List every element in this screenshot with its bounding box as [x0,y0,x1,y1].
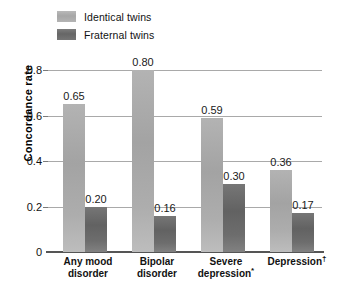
legend-label-identical-twins: Identical twins [84,11,151,23]
y-tick-label-0.8: 0.8 [27,64,42,76]
category-label-line2-bipolar-disorder: disorder [117,268,197,280]
category-label-any-mood-disorder: Any mood disorder [48,256,128,280]
bar-value-fraternal-bipolar-disorder: 0.16 [154,202,175,214]
bar-identical-any-mood-disorder: 0.65 [63,104,85,252]
category-label-line2-any-mood-disorder: disorder [48,268,128,280]
bar-identical-severe-depression: 0.59 [201,118,223,252]
y-tick-mark-0.4 [43,161,48,162]
bar-fraternal-depression: 0.17 [292,213,314,252]
chart-legend: Identical twins Fraternal twins [57,9,257,45]
bar-fraternal-any-mood-disorder: 0.20 [85,207,107,253]
category-label-line2-severe-depression: depression* [186,268,266,280]
bar-value-identical-any-mood-disorder: 0.65 [63,90,84,102]
y-tick-label-0.2: 0.2 [27,201,42,213]
category-label-severe-depression: Severe depression* [186,256,266,280]
legend-item-fraternal-twins: Fraternal twins [57,27,257,42]
category-label-line1-bipolar-disorder: Bipolar [117,256,197,268]
legend-item-identical-twins: Identical twins [57,9,257,24]
bar-fraternal-bipolar-disorder: 0.16 [154,216,176,252]
twin-concordance-bar-chart: Identical twins Fraternal twins Concorda… [0,0,339,289]
footnote-asterisk-marker: * [251,266,254,275]
y-tick-mark-0.8 [43,70,48,71]
bar-value-identical-bipolar-disorder: 0.80 [132,56,153,68]
bar-value-identical-severe-depression: 0.59 [201,104,222,116]
gridline-0.8 [48,70,322,71]
legend-label-fraternal-twins: Fraternal twins [84,29,154,41]
footnote-dagger-marker: † [322,254,326,263]
gridline-0.6 [48,116,322,117]
y-tick-label-0.4: 0.4 [27,155,42,167]
fraternal-twins-swatch-icon [57,29,76,40]
identical-twins-swatch-icon [57,11,76,22]
bar-fraternal-severe-depression: 0.30 [223,184,245,252]
bar-value-fraternal-severe-depression: 0.30 [223,170,244,182]
bar-value-fraternal-depression: 0.17 [292,199,313,211]
bar-identical-bipolar-disorder: 0.80 [132,70,154,252]
bar-identical-depression: 0.36 [270,170,292,252]
bar-value-fraternal-any-mood-disorder: 0.20 [85,193,106,205]
bar-value-identical-depression: 0.36 [270,156,291,168]
y-tick-label-0: 0 [36,246,42,258]
y-tick-label-0.6: 0.6 [27,110,42,122]
category-label-line1-text-depression: Depression [268,256,322,267]
category-label-depression: Depression† [255,256,339,268]
plot-area: 0.8 0.6 0.4 0.2 0 0.65 0.20 0.80 0.16 0.… [48,70,322,252]
category-label-line1-any-mood-disorder: Any mood [48,256,128,268]
y-tick-mark-0.6 [43,116,48,117]
category-label-line2-text-severe-depression: depression [198,268,251,279]
category-label-bipolar-disorder: Bipolar disorder [117,256,197,280]
y-tick-mark-0.2 [43,207,48,208]
category-label-line1-depression: Depression† [255,256,339,268]
